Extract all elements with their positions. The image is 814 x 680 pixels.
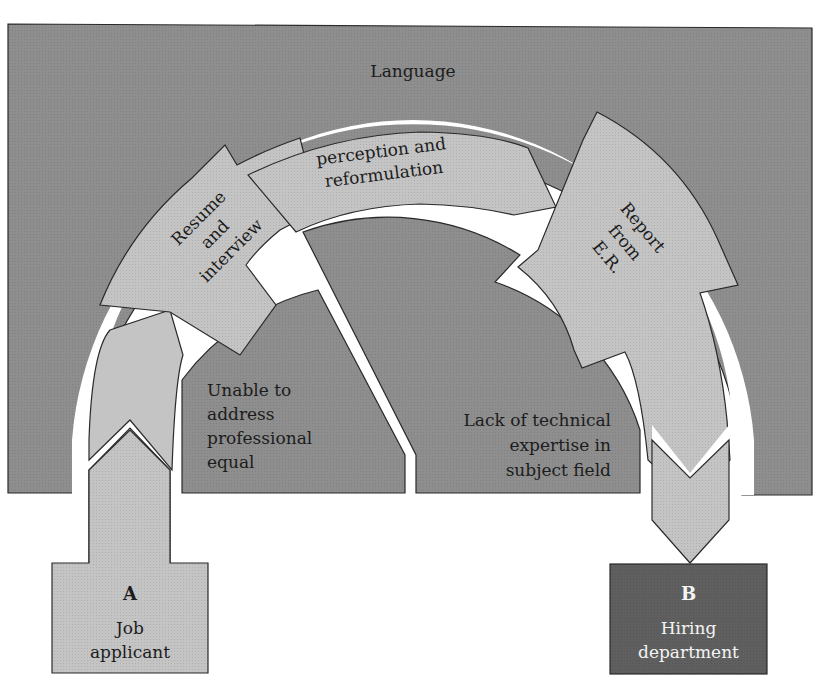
node-a-letter: A (52, 582, 208, 606)
node-b-line-2: department (610, 640, 767, 664)
lack-line-1: Lack of technical (415, 408, 611, 433)
node-a-label: A Job applicant (52, 582, 208, 664)
unable-line-2: address (207, 402, 312, 426)
unable-line-3: professional (207, 426, 312, 450)
barrier-unable-label: Unable to address professional equal (207, 378, 312, 474)
diagram-canvas: Language Resume and interview perception… (0, 0, 814, 680)
unable-line-1: Unable to (207, 378, 312, 402)
unable-line-4: equal (207, 450, 312, 474)
language-label: Language (353, 60, 473, 83)
node-a-line-2: applicant (52, 640, 208, 664)
barrier-lack-label: Lack of technical expertise in subject f… (415, 408, 611, 483)
node-b-label: B Hiring department (610, 582, 767, 664)
node-a-line-1: Job (52, 616, 208, 640)
diagram-graphics (0, 0, 814, 680)
node-b-letter: B (610, 582, 767, 606)
lack-line-3: subject field (415, 458, 611, 483)
lack-line-2: expertise in (415, 433, 611, 458)
node-b-line-1: Hiring (610, 616, 767, 640)
